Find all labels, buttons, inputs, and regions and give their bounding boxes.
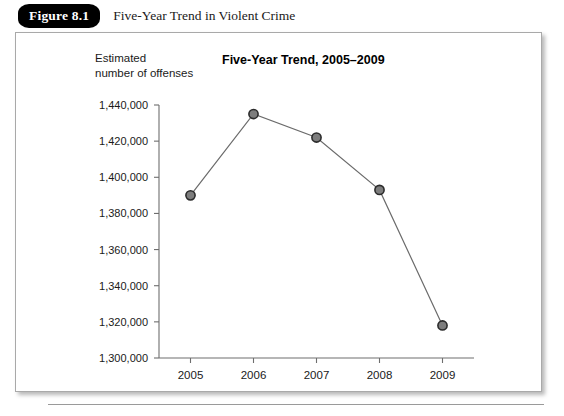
- y-axis-ticks: 1,300,0001,320,0001,340,0001,360,0001,38…: [99, 99, 159, 364]
- y-tick-label: 1,320,000: [99, 316, 148, 328]
- figure-panel: Estimated number of offenses Five-Year T…: [15, 32, 542, 392]
- x-tick-label: 2005: [178, 369, 204, 381]
- y-tick-label: 1,420,000: [99, 135, 148, 147]
- page-divider-rule: [48, 404, 544, 405]
- x-tick-label: 2009: [430, 369, 456, 381]
- x-axis-ticks: 20052006200720082009: [178, 358, 456, 381]
- data-point-marker: [186, 191, 195, 200]
- y-tick-label: 1,380,000: [99, 207, 148, 219]
- data-point-marker: [438, 321, 447, 330]
- x-tick-label: 2007: [304, 369, 330, 381]
- x-tick-label: 2008: [367, 369, 393, 381]
- data-point-marker: [375, 185, 384, 194]
- y-tick-label: 1,340,000: [99, 280, 148, 292]
- x-tick-label: 2006: [241, 369, 267, 381]
- data-point-markers: [186, 109, 447, 330]
- data-point-marker: [249, 109, 258, 118]
- y-tick-label: 1,440,000: [99, 99, 148, 111]
- line-chart-plot: 1,300,0001,320,0001,340,0001,360,0001,38…: [16, 33, 543, 392]
- figure-number-badge: Figure 8.1: [18, 4, 100, 29]
- data-point-marker: [312, 133, 321, 142]
- y-tick-label: 1,400,000: [99, 171, 148, 183]
- figure-header: Figure 8.1 Five-Year Trend in Violent Cr…: [18, 4, 295, 28]
- y-tick-label: 1,300,000: [99, 352, 148, 364]
- figure-caption: Five-Year Trend in Violent Crime: [113, 8, 295, 24]
- y-tick-label: 1,360,000: [99, 244, 148, 256]
- trend-line: [191, 114, 443, 326]
